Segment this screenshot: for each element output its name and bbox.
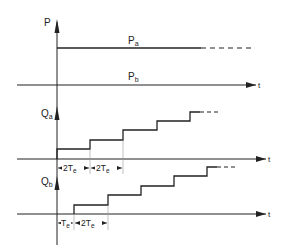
qa-time-label: t <box>268 155 271 164</box>
qb-axis-arrow-icon <box>55 176 60 190</box>
timing-diagram: P t Pa Pb Qa t 2Te 2Te Qb t <box>0 0 285 249</box>
panel-qb: Qb t Te 2Te <box>17 167 271 230</box>
qb-axis-label: Qb <box>41 176 53 188</box>
qb-time-label: t <box>268 210 271 219</box>
qb-staircase <box>74 167 217 214</box>
vertical-axis <box>55 19 60 245</box>
p-axis-arrow-icon <box>55 19 60 33</box>
qa-staircase <box>57 112 200 159</box>
pb-label: Pb <box>128 71 139 83</box>
p-axis-label: P <box>44 17 51 28</box>
panel-p: P t Pa Pb <box>17 17 261 90</box>
qa-axis-arrow-icon <box>55 106 60 120</box>
qa-axis-label: Qa <box>41 108 53 120</box>
p-time-label: t <box>258 81 261 90</box>
pa-label: Pa <box>128 35 139 47</box>
